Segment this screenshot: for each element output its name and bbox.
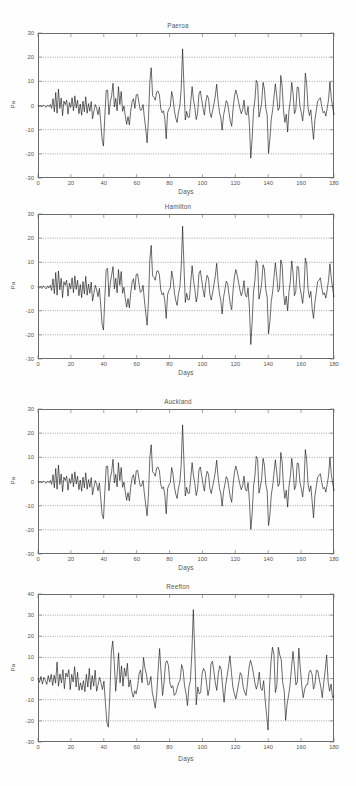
y-tick-label: 0 <box>12 284 34 290</box>
y-tick-label: 30 <box>12 211 34 217</box>
y-tick-label: 0 <box>12 479 34 485</box>
x-tick-label: 100 <box>192 556 212 562</box>
x-tick-label: 140 <box>258 556 278 562</box>
plot-panel-paeroa: Paeroa Pa Days -30-20-100102030020406080… <box>0 0 356 200</box>
x-tick-label: 160 <box>291 744 311 750</box>
y-tick-label: 30 <box>12 612 34 618</box>
y-tick-label: 0 <box>12 676 34 682</box>
x-tick-label: 40 <box>94 744 114 750</box>
y-tick-label: -10 <box>12 308 34 314</box>
y-tick-label: -20 <box>12 151 34 157</box>
plot-svg-paeroa <box>0 0 356 200</box>
x-tick-label: 120 <box>225 556 245 562</box>
y-tick-label: 10 <box>12 654 34 660</box>
data-trace <box>38 425 334 529</box>
x-tick-label: 180 <box>324 180 344 186</box>
figure-canvas: Paeroa Pa Days -30-20-100102030020406080… <box>0 0 356 786</box>
plot-svg-reefton <box>0 578 356 786</box>
y-tick-label: 20 <box>12 430 34 436</box>
x-tick-label: 0 <box>28 744 48 750</box>
x-tick-label: 80 <box>160 361 180 367</box>
x-tick-label: 20 <box>61 556 81 562</box>
x-tick-label: 20 <box>61 361 81 367</box>
x-tick-label: 60 <box>127 180 147 186</box>
x-tick-label: 60 <box>127 744 147 750</box>
x-tick-label: 80 <box>160 556 180 562</box>
x-tick-label: 140 <box>258 744 278 750</box>
x-tick-label: 40 <box>94 556 114 562</box>
y-tick-label: -20 <box>12 332 34 338</box>
y-tick-label: 20 <box>12 54 34 60</box>
data-trace <box>38 226 334 344</box>
x-tick-label: 40 <box>94 180 114 186</box>
x-tick-label: 80 <box>160 744 180 750</box>
plot-panel-hamilton: Hamilton Pa Days -30-20-1001020300204060… <box>0 196 356 392</box>
y-tick-label: 20 <box>12 235 34 241</box>
x-tick-label: 60 <box>127 361 147 367</box>
y-tick-label: 10 <box>12 454 34 460</box>
plot-panel-auckland: Auckland Pa Days -30-20-1001020300204060… <box>0 392 356 588</box>
y-tick-label: 10 <box>12 259 34 265</box>
x-tick-label: 80 <box>160 180 180 186</box>
x-tick-label: 20 <box>61 744 81 750</box>
x-tick-label: 100 <box>192 361 212 367</box>
y-tick-label: 30 <box>12 406 34 412</box>
data-trace <box>38 49 334 158</box>
y-tick-label: -10 <box>12 503 34 509</box>
x-tick-label: 40 <box>94 361 114 367</box>
y-tick-label: -10 <box>12 697 34 703</box>
data-trace <box>38 610 334 731</box>
x-tick-label: 180 <box>324 556 344 562</box>
x-tick-label: 120 <box>225 361 245 367</box>
x-tick-label: 60 <box>127 556 147 562</box>
x-tick-label: 160 <box>291 556 311 562</box>
x-tick-label: 160 <box>291 361 311 367</box>
y-tick-label: 20 <box>12 633 34 639</box>
x-tick-label: 100 <box>192 180 212 186</box>
x-tick-label: 100 <box>192 744 212 750</box>
y-tick-label: -10 <box>12 127 34 133</box>
x-tick-label: 180 <box>324 361 344 367</box>
x-tick-label: 180 <box>324 744 344 750</box>
y-tick-label: 40 <box>12 591 34 597</box>
x-tick-label: 140 <box>258 361 278 367</box>
y-tick-label: 0 <box>12 103 34 109</box>
y-tick-label: 10 <box>12 78 34 84</box>
y-tick-label: -20 <box>12 718 34 724</box>
x-tick-label: 0 <box>28 180 48 186</box>
plot-panel-reefton: Reefton Pa Days -30-20-10010203040020406… <box>0 578 356 786</box>
x-tick-label: 160 <box>291 180 311 186</box>
x-tick-label: 120 <box>225 180 245 186</box>
x-tick-label: 20 <box>61 180 81 186</box>
x-tick-label: 140 <box>258 180 278 186</box>
x-tick-label: 0 <box>28 556 48 562</box>
y-tick-label: -20 <box>12 527 34 533</box>
x-tick-label: 0 <box>28 361 48 367</box>
y-tick-label: 30 <box>12 30 34 36</box>
x-tick-label: 120 <box>225 744 245 750</box>
